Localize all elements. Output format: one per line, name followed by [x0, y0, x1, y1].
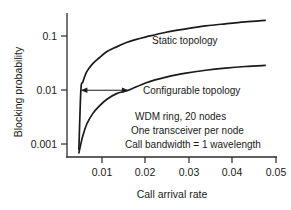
x-tick-label-2: 0.03	[179, 166, 200, 178]
y-tick-label-0: 0.1	[42, 30, 57, 42]
chart-canvas: 0.1 0.01 0.001 0.01 0.02 0.03 0.04 0.05 …	[0, 0, 291, 210]
chart-note-line-0: WDM ring, 20 nodes	[135, 111, 226, 122]
chart-note-line-1: One transceiver per node	[131, 125, 244, 136]
x-tick-label-1: 0.02	[135, 166, 156, 178]
x-tick-label-0: 0.01	[92, 166, 113, 178]
y-axis-title: Blocking probability	[12, 46, 24, 137]
x-axis-title: Call arrival rate	[137, 188, 208, 200]
x-tick-label-4: 0.05	[266, 166, 287, 178]
series-label-static-topology: Static topology	[152, 35, 218, 46]
blocking-probability-chart: 0.1 0.01 0.001 0.01 0.02 0.03 0.04 0.05 …	[0, 0, 291, 210]
y-tick-label-1: 0.01	[37, 84, 58, 96]
chart-note-line-2: Call bandwidth = 1 wavelength	[125, 139, 261, 150]
y-tick-label-2: 0.001	[31, 138, 57, 150]
x-tick-label-3: 0.04	[222, 166, 243, 178]
series-label-configurable-topology: Configurable topology	[143, 85, 240, 96]
